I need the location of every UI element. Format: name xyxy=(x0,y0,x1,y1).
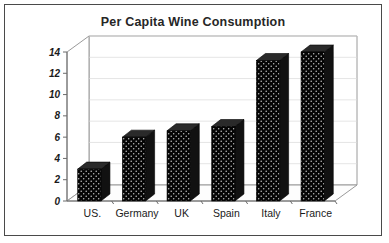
bar-column[interactable] xyxy=(122,130,154,201)
x-axis-label: France xyxy=(299,207,332,219)
y-axis-label: 2 xyxy=(53,174,60,185)
bar-column[interactable] xyxy=(78,162,110,201)
bar-side-face xyxy=(146,130,155,201)
bar-side-face xyxy=(280,54,289,201)
bar-column[interactable] xyxy=(301,45,333,201)
chart-svg: 02468101214US.GermanyUKSpainItalyFrance xyxy=(5,5,383,237)
y-axis-label: 4 xyxy=(53,153,60,164)
chart-geometry: 02468101214US.GermanyUKSpainItalyFrance xyxy=(49,36,357,219)
x-axis-label: Spain xyxy=(213,207,240,219)
x-axis-label: Germany xyxy=(115,207,159,219)
x-axis-tick xyxy=(335,201,337,204)
y-axis-label: 12 xyxy=(49,68,61,79)
bar-side-face xyxy=(324,45,333,201)
x-axis-label: US. xyxy=(84,207,102,219)
bar-front-face xyxy=(256,61,279,201)
bar-side-face xyxy=(190,124,199,201)
bar-front-face xyxy=(78,169,101,201)
bar-side-face xyxy=(235,120,244,202)
bar-front-face xyxy=(167,131,190,201)
y-axis-label: 14 xyxy=(49,47,61,58)
bar-front-face xyxy=(122,137,145,201)
chart-plot-area: 02468101214US.GermanyUKSpainItalyFrance xyxy=(5,5,383,237)
bar-front-face xyxy=(301,52,324,201)
x-axis-label: Italy xyxy=(261,207,281,219)
bar-column[interactable] xyxy=(167,124,199,201)
y-axis-label: 6 xyxy=(54,132,60,143)
y-axis-label: 0 xyxy=(54,196,60,207)
x-axis-label: UK xyxy=(174,207,189,219)
bar-front-face xyxy=(212,127,235,202)
bar-column[interactable] xyxy=(212,120,244,202)
y-axis-label: 8 xyxy=(54,110,60,121)
y-axis-label: 10 xyxy=(49,89,61,100)
bar-column[interactable] xyxy=(256,54,288,201)
chart-frame: Per Capita Wine Consumption 02468101214U… xyxy=(4,4,382,236)
